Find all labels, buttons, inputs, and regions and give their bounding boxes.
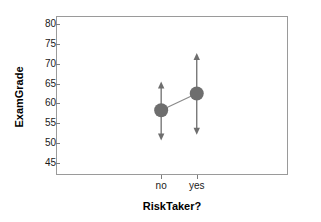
data-layer bbox=[0, 0, 321, 222]
error-bar-arrow-down bbox=[158, 133, 164, 140]
error-bar-arrow-up bbox=[158, 82, 164, 89]
chart-container: ExamGrade 80 75 70 65 60 55 50 45 no yes bbox=[0, 0, 321, 222]
data-point-marker[interactable] bbox=[190, 87, 204, 101]
data-point-marker[interactable] bbox=[154, 103, 168, 117]
error-bar-arrow-down bbox=[194, 128, 200, 135]
x-axis-title: RiskTaker? bbox=[56, 200, 288, 213]
error-bar-arrow-up bbox=[194, 53, 200, 60]
